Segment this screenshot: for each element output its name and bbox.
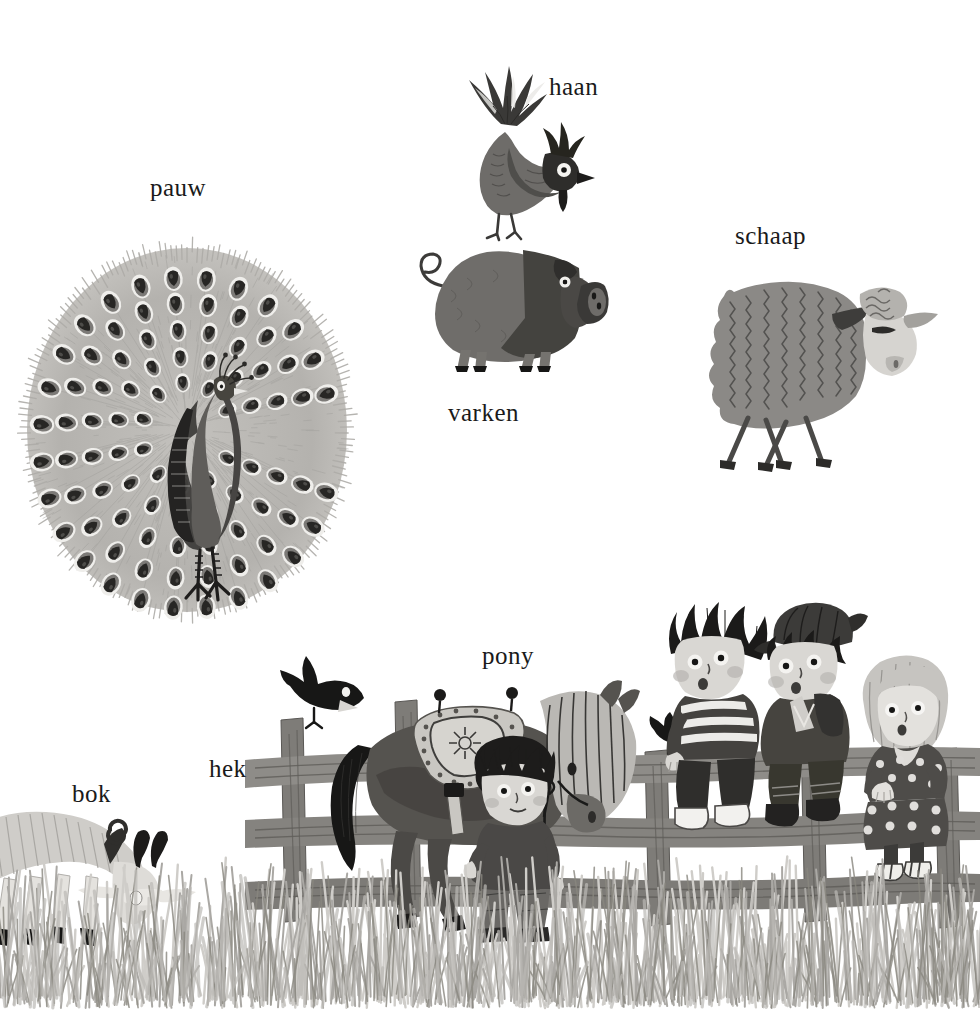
- label-varken: varken: [448, 400, 519, 425]
- label-haan: haan: [549, 74, 598, 99]
- sheep-illustration: [690, 258, 940, 476]
- girl-polka-illustration: [852, 652, 970, 880]
- pig-illustration: [405, 220, 615, 372]
- peacock-illustration: [22, 232, 352, 617]
- label-pauw: pauw: [150, 175, 206, 200]
- label-pony: pony: [482, 643, 534, 668]
- illustration-page: pauw haan schaap varken pony hek bok: [0, 0, 980, 1012]
- grass-illustration: [0, 858, 980, 1012]
- label-hek: hek: [209, 756, 247, 781]
- label-bok: bok: [72, 781, 111, 806]
- label-schaap: schaap: [735, 223, 806, 248]
